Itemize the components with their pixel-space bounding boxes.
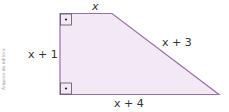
label-top: x bbox=[91, 0, 99, 13]
image-credit: Arquivo da editora bbox=[1, 48, 6, 90]
label-slant: x + 3 bbox=[162, 36, 192, 49]
trapezoid-diagram: x x + 1 x + 3 x + 4 Arquivo da editora bbox=[0, 0, 229, 112]
label-bottom: x + 4 bbox=[114, 97, 144, 110]
label-left: x + 1 bbox=[28, 48, 58, 61]
trapezoid-shape bbox=[60, 14, 219, 95]
